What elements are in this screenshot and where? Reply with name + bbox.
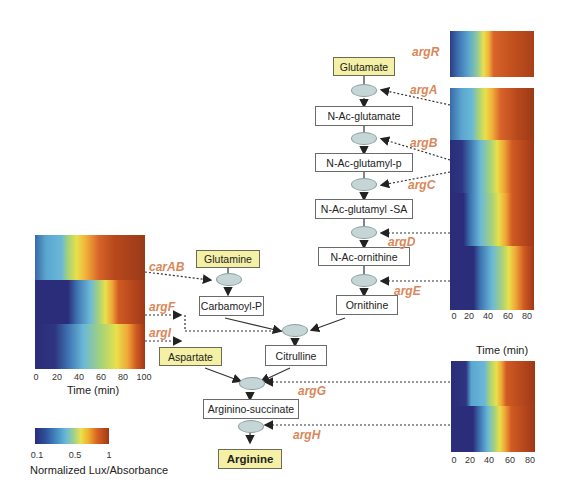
enzyme-argF-argI: [282, 324, 308, 337]
enzyme-argD: [351, 226, 377, 239]
arginine-pathway-figure: Glutamate N-Ac-glutamate N-Ac-glutamyl-p…: [0, 0, 562, 499]
tick: 80: [525, 455, 535, 465]
tick: 0: [33, 372, 38, 382]
colorbar-tick: 1: [106, 450, 111, 460]
tick: 0: [451, 311, 456, 321]
enzyme-argC: [351, 178, 377, 191]
gene-label-argD: argD: [388, 235, 415, 249]
node-citrulline: Citrulline: [265, 345, 327, 366]
tick: 40: [484, 455, 494, 465]
node-ornithine: Ornithine: [336, 295, 398, 315]
tick: 100: [136, 372, 151, 382]
gene-label-argG: argG: [298, 384, 326, 398]
heatmap-carAB-argF-argI: [35, 235, 145, 369]
tick: 60: [505, 455, 515, 465]
node-arginine: Arginine: [218, 449, 282, 469]
heatmap-argG-argH: [451, 361, 535, 452]
node-glutamine: Glutamine: [196, 250, 260, 268]
enzyme-carAB: [216, 273, 242, 286]
gene-label-argH: argH: [293, 428, 320, 442]
enzyme-argH: [238, 420, 264, 433]
node-carbamoyl-p: Carbamoyl-P: [199, 296, 264, 316]
gene-label-argI: argI: [149, 326, 171, 340]
tick: 60: [96, 372, 106, 382]
x-axis-label-right: Time (min): [476, 344, 528, 356]
colorbar-tick: 0.5: [69, 450, 82, 460]
tick: 20: [464, 311, 474, 321]
enzyme-argE: [351, 274, 377, 287]
tick: 20: [52, 372, 62, 382]
enzyme-argB: [351, 132, 377, 145]
tick: 40: [74, 372, 84, 382]
node-n-ac-glutamate: N-Ac-glutamate: [315, 106, 413, 126]
colorbar-tick: 0.1: [31, 450, 44, 460]
heatmap-argA-argE: [450, 88, 534, 310]
gene-label-argE: argE: [394, 284, 421, 298]
x-axis-label-left: Time (min): [67, 384, 119, 396]
gene-label-carAB: carAB: [149, 260, 184, 274]
gene-label-argF: argF: [149, 300, 175, 314]
tick: 80: [118, 372, 128, 382]
node-arginino-succinate: Arginino-succinate: [203, 399, 299, 419]
node-n-ac-ornithine: N-Ac-ornithine: [318, 247, 410, 266]
enzyme-argG: [239, 377, 265, 390]
node-glutamate: Glutamate: [333, 57, 395, 76]
enzyme-argA: [351, 84, 377, 97]
gene-label-argA: argA: [410, 83, 437, 97]
gene-label-argC: argC: [408, 178, 435, 192]
tick: 40: [483, 311, 493, 321]
node-n-ac-glutamyl-sa: N-Ac-glutamyl -SA: [315, 199, 413, 219]
tick: 0: [451, 455, 456, 465]
heatmap-argR: [450, 31, 534, 77]
colorbar: [35, 428, 109, 444]
tick: 60: [503, 311, 513, 321]
node-aspartate: Aspartate: [159, 347, 222, 366]
node-n-ac-glutamyl-p: N-Ac-glutamyl-p: [315, 153, 413, 172]
tick: 80: [522, 311, 532, 321]
tick: 20: [465, 455, 475, 465]
colorbar-label: Normalized Lux/Absorbance: [30, 464, 168, 476]
gene-label-argR: argR: [412, 45, 439, 59]
gene-label-argB: argB: [410, 136, 437, 150]
